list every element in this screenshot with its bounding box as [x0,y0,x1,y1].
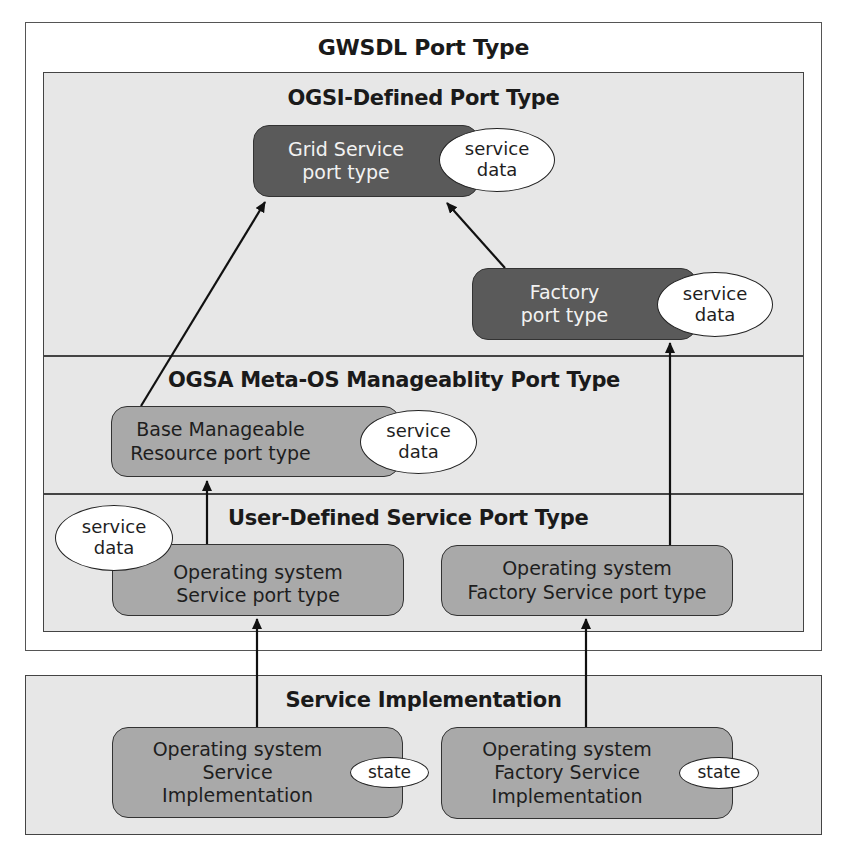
oval-line1: service [82,517,146,538]
implementation-section-title: Service Implementation [25,688,822,712]
oval-line2: data [695,305,736,326]
ogsi-ogsa-divider [43,355,804,357]
factory-impl-line3: Implementation [492,785,643,808]
os-service-state-oval: state [350,757,429,788]
base-service-data-oval: service data [360,410,477,474]
os-factory-line1: Operating system [502,557,672,580]
base-line1: Base Manageable [136,418,304,441]
factory-impl-line2: Factory Service [494,761,640,784]
os-factory-line2: Factory Service port type [467,581,706,604]
ogsi-section-title: OGSI-Defined Port Type [43,86,804,110]
oval-line1: service [683,284,747,305]
oval-line1: service [465,139,529,160]
oval-line2: data [477,160,518,181]
factory-service-data-oval: service data [657,272,773,337]
ogsa-user-divider [43,493,804,495]
grid-service-data-oval: service data [439,128,555,192]
gwsdl-title: GWSDL Port Type [25,35,822,60]
user-defined-section-title: User-Defined Service Port Type [228,506,588,530]
state-label: state [697,763,740,783]
impl-line1: Operating system [153,738,323,761]
oval-line2: data [398,442,439,463]
os-service-line1: Operating system [173,561,343,584]
state-label: state [368,763,411,783]
factory-line1: Factory [530,281,599,304]
ogsa-section-title: OGSA Meta-OS Manageablity Port Type [168,368,620,392]
factory-line2: port type [521,304,608,327]
base-manageable-resource-box[interactable]: Base Manageable Resource port type [111,406,400,477]
impl-line3: Implementation [162,784,313,807]
os-service-line2: Service port type [176,584,340,607]
os-factory-service-port-type-box[interactable]: Operating system Factory Service port ty… [441,545,733,616]
factory-impl-line1: Operating system [482,738,652,761]
oval-line2: data [94,538,135,559]
os-factory-state-oval: state [679,757,759,789]
grid-service-line2: port type [302,161,389,184]
base-line2: Resource port type [130,442,311,465]
os-service-data-oval: service data [55,505,173,571]
grid-service-line1: Grid Service [288,138,404,161]
impl-line2: Service [202,761,272,784]
oval-line1: service [386,421,450,442]
